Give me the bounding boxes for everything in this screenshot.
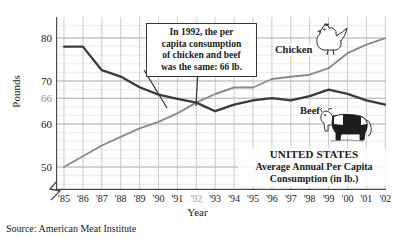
- axis-break-icon: [46, 180, 68, 202]
- caption-block: UNITED STATES Average Annual Per Capita …: [238, 148, 390, 186]
- y-tick-66: 66: [26, 93, 52, 104]
- caption-country: UNITED STATES: [238, 148, 390, 161]
- series-label-chicken: Chicken: [274, 44, 313, 56]
- callout-line-1: In 1992, the per: [151, 27, 252, 39]
- y-tick-50: 50: [26, 162, 52, 173]
- x-axis-ticks: '85 '86 '87 '88 '89 '90 '91 '92 '93 '94 …: [56, 193, 386, 207]
- callout-1992: In 1992, the per capita consumption of c…: [146, 23, 257, 77]
- caption-line-3: Consumption (in lb.): [238, 173, 390, 186]
- y-tick-70: 70: [26, 76, 52, 87]
- y-axis-ticks: 80 70 66 60 50: [22, 17, 52, 190]
- cow-icon: [317, 105, 375, 145]
- x-axis-label: Year: [0, 206, 395, 218]
- y-tick-80: 80: [26, 33, 52, 44]
- callout-line-2: capita consumption: [151, 39, 252, 51]
- y-tick-60: 60: [26, 119, 52, 130]
- callout-line-3: of chicken and beef: [151, 50, 252, 62]
- y-axis-label: Pounds: [11, 60, 22, 124]
- caption-line-2: Average Annual Per Capita: [238, 161, 390, 174]
- chart-figure: 80 70 66 60 50 Pounds: [0, 0, 395, 238]
- source-note: Source: American Meat Institute: [6, 223, 136, 234]
- callout-line-4: was the same: 66 lb.: [151, 62, 252, 74]
- x-tick-02: '02: [373, 193, 395, 205]
- chicken-icon: [310, 22, 350, 56]
